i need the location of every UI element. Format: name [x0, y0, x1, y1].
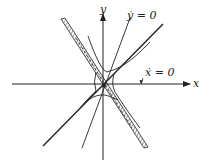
x-axis-label: x — [193, 78, 199, 89]
y-axis-label: y — [100, 4, 106, 15]
ydot-nullcline — [82, 18, 130, 148]
xdot-nullcline-label: ẋ = 0 — [145, 67, 174, 78]
trajectory-curves — [80, 36, 150, 128]
phase-portrait-canvas — [0, 0, 211, 161]
ydot-nullcline-label: ẏ = 0 — [127, 10, 156, 21]
xdot-nullcline-pointer — [140, 78, 144, 84]
equilibrium-point — [102, 84, 105, 87]
